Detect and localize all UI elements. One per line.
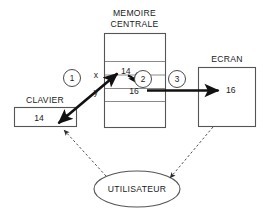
keyboard-label: CLAVIER bbox=[26, 95, 64, 105]
memory-label-line2: CENTRALE bbox=[110, 19, 158, 29]
memory-var-y: y bbox=[94, 87, 99, 97]
step-label-3: 3 bbox=[175, 75, 180, 84]
diagram-svg: MEMOIRE CENTRALE CLAVIER 14 ECRAN 16 x y… bbox=[0, 0, 271, 215]
diagram-canvas: MEMOIRE CENTRALE CLAVIER 14 ECRAN 16 x y… bbox=[0, 0, 271, 215]
screen-node bbox=[199, 68, 256, 127]
screen-box bbox=[199, 68, 256, 127]
user-label: UTILISATEUR bbox=[108, 184, 167, 194]
step-label-2: 2 bbox=[141, 75, 146, 84]
memory-value-x: 14 bbox=[121, 66, 131, 76]
memory-label-line1: MEMOIRE bbox=[113, 8, 156, 18]
dashed-user-to-keyboard bbox=[64, 130, 106, 176]
screen-value: 16 bbox=[226, 85, 236, 95]
dashed-screen-to-user bbox=[170, 127, 213, 178]
memory-var-x: x bbox=[94, 70, 99, 80]
keyboard-value: 14 bbox=[34, 113, 44, 123]
memory-value-y: 16 bbox=[129, 86, 139, 96]
screen-label: ECRAN bbox=[211, 54, 243, 64]
step-label-1: 1 bbox=[70, 74, 75, 83]
